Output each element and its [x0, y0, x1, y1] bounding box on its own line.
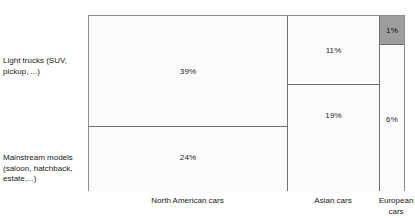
row-label-mainstream-models: Mainstream models (saloon, hatchback, es…	[3, 153, 85, 185]
column-label-north-american-cars: North American cars	[88, 196, 287, 207]
tile-label-asian-light-trucks: 11%	[288, 46, 379, 56]
column-label-asian-cars: Asian cars	[287, 196, 379, 207]
tile-label-north-american-mainstream: 24%	[89, 153, 287, 163]
tile-north-american-mainstream[interactable]: 24%	[89, 127, 288, 191]
row-label-light-trucks: Light trucks (SUV, pickup, ...)	[3, 56, 85, 77]
plot-area: 39% 24% 11% 19% 1% 6%	[88, 15, 405, 191]
chart-title	[150, 0, 290, 5]
tile-north-american-light-trucks[interactable]: 39%	[89, 16, 288, 127]
tile-label-asian-mainstream: 19%	[288, 111, 379, 121]
column-label-european-cars: European cars	[377, 196, 415, 217]
tile-european-light-trucks[interactable]: 1%	[380, 16, 404, 45]
tile-asian-mainstream[interactable]: 19%	[288, 85, 380, 191]
tile-label-european-light-trucks: 1%	[380, 26, 404, 36]
mosaic-chart: 39% 24% 11% 19% 1% 6% Light trucks (SUV,…	[0, 0, 415, 218]
tile-european-mainstream[interactable]: 6%	[380, 45, 404, 191]
tile-label-north-american-light-trucks: 39%	[89, 67, 287, 77]
tile-asian-light-trucks[interactable]: 11%	[288, 16, 380, 85]
tile-label-european-mainstream: 6%	[380, 115, 404, 125]
